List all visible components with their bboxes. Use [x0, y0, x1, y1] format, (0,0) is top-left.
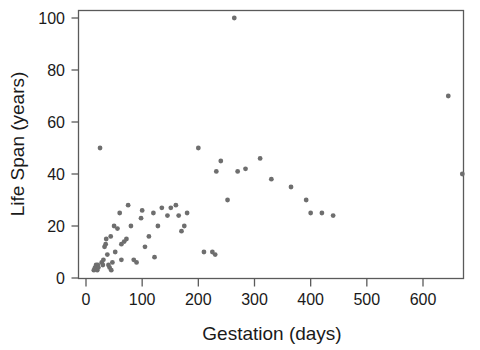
data-point [115, 226, 120, 231]
data-point [110, 260, 115, 265]
x-axis-label: Gestation (days) [202, 323, 341, 344]
x-tick-label-500: 500 [353, 291, 380, 308]
figure-background [0, 0, 480, 350]
data-point [225, 198, 230, 203]
data-point [460, 172, 465, 177]
data-point [159, 205, 164, 210]
x-tick-label-400: 400 [297, 291, 324, 308]
y-tick-label-0: 0 [56, 270, 65, 287]
data-point [124, 237, 129, 242]
y-axis-label: Life Span (years) [7, 72, 28, 217]
data-point [446, 94, 451, 99]
data-point [196, 146, 201, 151]
data-point [152, 255, 157, 260]
x-tick-label-600: 600 [410, 291, 437, 308]
data-point [101, 257, 106, 262]
data-point [104, 237, 109, 242]
data-point [308, 211, 313, 216]
data-point [320, 211, 325, 216]
data-point [269, 177, 274, 182]
data-point [119, 257, 124, 262]
data-point [109, 268, 114, 273]
x-tick-label-300: 300 [241, 291, 268, 308]
data-point [214, 169, 219, 174]
data-point [129, 224, 134, 229]
data-point [103, 242, 108, 247]
data-point [289, 185, 294, 190]
data-point [98, 146, 103, 151]
data-point [331, 213, 336, 218]
data-point [100, 263, 105, 268]
data-point [147, 234, 152, 239]
data-point [134, 260, 139, 265]
x-tick-label-0: 0 [82, 291, 91, 308]
data-point [140, 208, 145, 213]
data-point [235, 169, 240, 174]
data-point [113, 250, 118, 255]
y-tick-label-20: 20 [47, 218, 65, 235]
data-point [179, 229, 184, 234]
data-point [304, 198, 309, 203]
y-tick-label-80: 80 [47, 62, 65, 79]
data-point [143, 244, 148, 249]
data-point [139, 216, 144, 221]
data-point [105, 252, 110, 257]
y-tick-label-60: 60 [47, 114, 65, 131]
data-point [151, 211, 156, 216]
y-tick-label-40: 40 [47, 166, 65, 183]
data-point [173, 203, 178, 208]
data-point [218, 159, 223, 164]
data-point [185, 211, 190, 216]
data-point [243, 166, 248, 171]
data-point [258, 156, 263, 161]
data-point [176, 213, 181, 218]
data-point [232, 16, 237, 21]
data-point [182, 224, 187, 229]
data-point [117, 211, 122, 216]
data-point [165, 213, 170, 218]
data-point [155, 224, 160, 229]
scatter-plot-figure: 020406080100 0100200300400500600 Life Sp… [0, 0, 480, 350]
data-point [202, 250, 207, 255]
data-point [126, 203, 131, 208]
data-point [96, 265, 101, 270]
y-tick-label-100: 100 [38, 10, 65, 27]
x-tick-label-200: 200 [185, 291, 212, 308]
data-point [168, 205, 173, 210]
data-point [213, 252, 218, 257]
x-tick-label-100: 100 [129, 291, 156, 308]
data-point [108, 234, 113, 239]
